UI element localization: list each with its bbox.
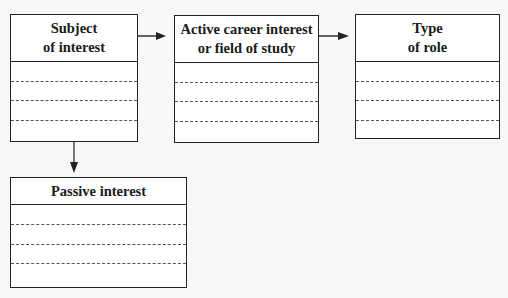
arrowhead-right-icon	[156, 32, 166, 40]
arrow-subject-to-active	[138, 32, 166, 40]
arrow-active-to-role	[319, 32, 349, 40]
arrowhead-down-icon	[70, 162, 78, 173]
arrow-subject-to-passive	[70, 142, 78, 173]
arrowhead-right-icon	[338, 32, 349, 40]
connector-arrows	[0, 0, 508, 298]
